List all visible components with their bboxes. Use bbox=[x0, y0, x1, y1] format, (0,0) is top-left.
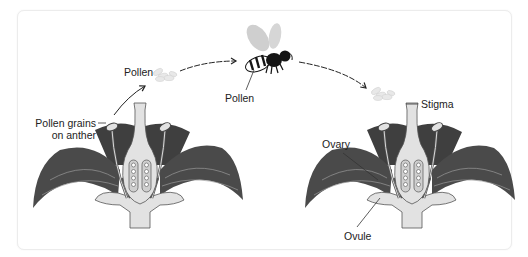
leader-ovule bbox=[357, 198, 380, 227]
label-ovule: Ovule bbox=[344, 230, 371, 242]
label-pollen-grains: Pollen grains on anther bbox=[30, 117, 96, 141]
pollen-cloud-right bbox=[370, 86, 395, 100]
label-pollen-grains-line1: Pollen grains bbox=[30, 117, 96, 129]
label-stigma: Stigma bbox=[421, 98, 454, 110]
label-pollen-grains-line2: on anther bbox=[30, 129, 96, 141]
bee-icon bbox=[242, 21, 292, 75]
label-pollen-released: Pollen bbox=[124, 66, 153, 78]
label-pollen-on-bee: Pollen bbox=[225, 92, 254, 104]
label-ovary: Ovary bbox=[322, 138, 350, 150]
arrow-pollen-to-bee bbox=[180, 61, 236, 71]
arrow-bee-to-stigma bbox=[299, 62, 366, 88]
recipient-flower bbox=[305, 103, 515, 228]
pollen-cloud-left bbox=[152, 67, 177, 81]
leader-pollen-bee bbox=[246, 70, 254, 90]
